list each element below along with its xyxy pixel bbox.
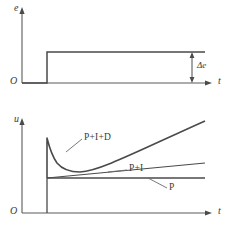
curve-label-pi: P+I <box>129 164 143 174</box>
leader-line-p <box>148 178 167 188</box>
top-chart-y-axis-label: e <box>14 3 18 13</box>
delta-e-label: Δe <box>197 61 206 70</box>
top-x-axis <box>22 80 212 85</box>
top-chart-origin-label: O <box>10 76 17 86</box>
pid-response-figure <box>0 0 230 234</box>
bottom-chart-x-axis-label: t <box>218 206 221 216</box>
bottom-x-axis <box>22 210 212 215</box>
bottom-chart-y-axis-label: u <box>14 114 19 124</box>
curve-p-i-d <box>47 121 205 178</box>
delta-e-measure-arrow <box>190 52 195 83</box>
top-chart <box>19 7 212 86</box>
curve-label-pid: P+I+D <box>84 133 111 143</box>
error-step-curve <box>22 52 205 83</box>
curve-label-p: P <box>169 183 174 193</box>
bottom-chart-origin-label: O <box>10 206 17 216</box>
bottom-chart <box>19 118 212 216</box>
bottom-y-axis <box>19 118 24 213</box>
leader-line-pid <box>66 139 82 152</box>
top-y-axis <box>19 7 24 83</box>
top-chart-x-axis-label: t <box>218 76 221 86</box>
